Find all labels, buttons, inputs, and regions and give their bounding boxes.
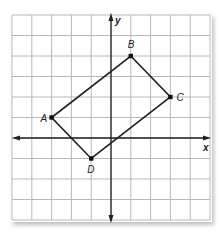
x-axis-left-arrow-icon bbox=[12, 136, 20, 141]
coordinate-plane: xy ABCD bbox=[0, 0, 219, 232]
vertices: ABCD bbox=[40, 39, 185, 175]
y-axis-up-arrow-icon bbox=[109, 13, 114, 21]
vertex-d-marker bbox=[89, 156, 93, 160]
y-axis-label: y bbox=[114, 15, 121, 26]
vertex-c-marker bbox=[168, 95, 172, 99]
vertex-a-label: A bbox=[40, 113, 48, 124]
vertex-b-marker bbox=[129, 54, 133, 58]
vertex-a-marker bbox=[49, 115, 53, 119]
vertex-d-label: D bbox=[87, 164, 94, 175]
y-axis-down-arrow-icon bbox=[109, 215, 114, 223]
coordinate-plane-figure: xy ABCD bbox=[0, 0, 219, 232]
vertex-b-label: B bbox=[128, 39, 135, 50]
x-axis-label: x bbox=[202, 142, 209, 153]
vertex-c-label: C bbox=[176, 92, 184, 103]
